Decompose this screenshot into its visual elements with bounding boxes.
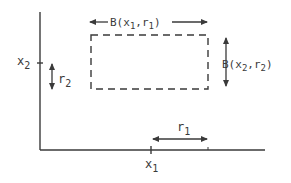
- x1-tick-label: x1: [145, 157, 158, 174]
- neighborhood-box: [91, 35, 208, 89]
- r1-label: r1: [177, 120, 190, 137]
- neighborhood-diagram: x1 x2 B(x1,r1) B(x2,r2) r2 r1: [0, 0, 291, 183]
- x2-tick-label: x2: [17, 54, 30, 71]
- b-x1-r1-label: B(x1,r1): [110, 16, 161, 31]
- r2-label: r2: [58, 72, 71, 89]
